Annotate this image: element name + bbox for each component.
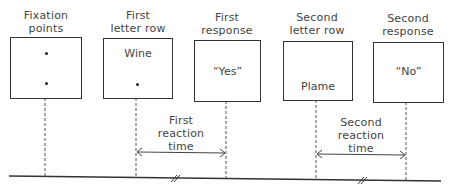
interval-label-line: reaction (150, 127, 212, 140)
heading-line: Second (368, 12, 448, 25)
second-letter-row-box: Plame (283, 41, 353, 101)
heading-line: First (98, 9, 178, 22)
heading-line: response (188, 24, 266, 37)
fixation-dot-icon (45, 82, 48, 85)
first-response-box: “Yes” (194, 40, 261, 102)
heading-line: First (188, 11, 266, 24)
interval-label-line: Second (330, 116, 392, 129)
first-response-word: “Yes” (195, 65, 260, 78)
first-letter-row-word: Wine (104, 47, 172, 60)
second-response-word: “No” (374, 65, 443, 78)
second-letter-row-word: Plame (284, 80, 352, 93)
heading-line: Fixation (10, 9, 82, 22)
time-axis (9, 176, 441, 181)
heading-first-response: First response (188, 11, 266, 37)
heading-second-letter-row: Second letter row (277, 11, 357, 37)
second-reaction-time-label: Second reaction time (330, 116, 392, 155)
fixation-dot-icon (136, 83, 139, 86)
heading-second-response: Second response (368, 12, 448, 38)
fixation-points-box (10, 37, 82, 99)
heading-line: letter row (277, 24, 357, 37)
heading-line: points (10, 22, 82, 35)
first-letter-row-box: Wine (103, 38, 173, 99)
heading-line: letter row (98, 22, 178, 35)
heading-first-letter-row: First letter row (98, 9, 178, 35)
interval-label-line: reaction (330, 129, 392, 142)
first-reaction-time-label: First reaction time (150, 114, 212, 153)
heading-fixation-points: Fixation points (10, 9, 82, 35)
heading-line: response (368, 25, 448, 38)
fixation-dot-icon (45, 52, 48, 55)
interval-label-line: time (150, 140, 212, 153)
interval-label-line: time (330, 142, 392, 155)
interval-label-line: First (150, 114, 212, 127)
heading-line: Second (277, 11, 357, 24)
second-response-box: “No” (373, 42, 444, 103)
